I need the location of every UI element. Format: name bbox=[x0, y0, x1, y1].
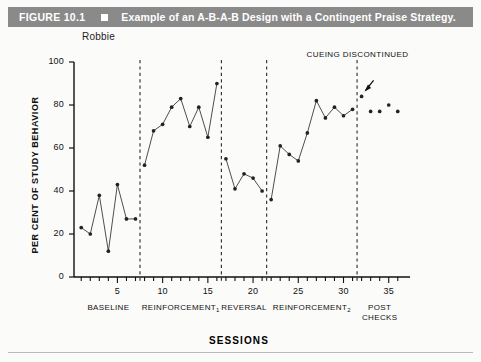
x-axis-title: SESSIONS bbox=[209, 335, 269, 346]
x-tick-label: 10 bbox=[151, 286, 175, 296]
x-tick-label: 25 bbox=[286, 286, 310, 296]
figure-number: FIGURE 10.1 bbox=[19, 11, 85, 23]
filled-square-icon bbox=[101, 14, 108, 21]
y-tick-label: 60 bbox=[38, 142, 64, 152]
x-tick-label: 15 bbox=[196, 286, 220, 296]
y-tick-label: 0 bbox=[38, 271, 64, 281]
figure-container: FIGURE 10.1 Example of an A-B-A-B Design… bbox=[0, 0, 481, 362]
x-tick-label: 30 bbox=[332, 286, 356, 296]
y-axis-title: PER CENT OF STUDY BEHAVIOR bbox=[30, 65, 40, 285]
bottom-divider bbox=[8, 352, 473, 353]
subject-label: Robbie bbox=[82, 31, 115, 42]
y-tick-label: 80 bbox=[38, 99, 64, 109]
annotation-label: CUEING DISCONTINUED bbox=[307, 50, 409, 59]
axes-group bbox=[69, 62, 410, 283]
x-tick-label: 35 bbox=[377, 286, 401, 296]
x-tick-label: 5 bbox=[105, 286, 129, 296]
y-tick-label: 40 bbox=[38, 185, 64, 195]
y-tick-label: 100 bbox=[38, 56, 64, 66]
phase-label: POSTCHECKS bbox=[330, 303, 430, 322]
annotation-arrow bbox=[365, 80, 374, 91]
data-series-group bbox=[79, 82, 399, 253]
y-tick-label: 20 bbox=[38, 228, 64, 238]
x-tick-label: 20 bbox=[241, 286, 265, 296]
phase-divider-lines bbox=[140, 60, 357, 283]
figure-caption: Example of an A-B-A-B Design with a Cont… bbox=[121, 11, 455, 23]
figure-header-bar: FIGURE 10.1 Example of an A-B-A-B Design… bbox=[8, 7, 473, 27]
